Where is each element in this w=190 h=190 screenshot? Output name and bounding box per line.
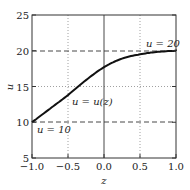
y-tick-label: 15: [16, 82, 29, 93]
x-tick-label: 0.0: [96, 161, 112, 172]
y-axis-label: u: [4, 84, 15, 90]
chart: 510152025 −1.0−0.50.00.51.0 z u u = 20 u…: [0, 0, 190, 190]
x-axis-ticks: −1.0−0.50.00.51.0: [20, 154, 184, 172]
y-axis-ticks: 510152025: [16, 10, 176, 164]
y-tick-label: 10: [16, 117, 29, 128]
annotation-curve: u = u(z): [72, 96, 113, 107]
x-tick-label: −0.5: [56, 161, 80, 172]
x-axis-label: z: [100, 175, 107, 186]
y-tick-label: 20: [16, 46, 29, 57]
x-tick-label: 0.5: [132, 161, 148, 172]
y-tick-label: 25: [16, 10, 29, 21]
x-tick-label: −1.0: [20, 161, 44, 172]
annotation-u10: u = 10: [37, 124, 72, 135]
annotation-u20: u = 20: [146, 38, 181, 49]
x-tick-label: 1.0: [168, 161, 184, 172]
